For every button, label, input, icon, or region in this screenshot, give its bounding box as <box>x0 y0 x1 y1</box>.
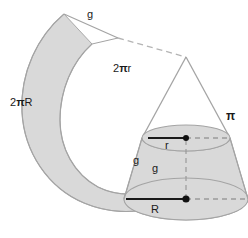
label-sector-top-slant: g <box>87 9 93 20</box>
label-pi-annotation: π <box>226 110 235 122</box>
diagram-canvas <box>0 0 248 238</box>
label-outer-arc-length: 2πR <box>10 97 33 108</box>
label-frustum-slant: g <box>152 163 158 174</box>
label-radius-small: r <box>165 140 169 151</box>
pi-glyph-inner: π <box>119 62 127 74</box>
arc-inner-post: r <box>128 62 132 74</box>
arc-outer-post: R <box>25 96 33 108</box>
sector-top-edge-inner <box>92 38 118 44</box>
label-radius-large: R <box>151 204 159 215</box>
cone-frustum-diagram: g 2πR 2πr π g g r R <box>0 0 248 238</box>
large-circle-center-dot <box>182 195 189 202</box>
dashed-apex-connector <box>118 38 186 57</box>
frustum-group <box>124 57 248 220</box>
label-inner-arc-length: 2πr <box>113 63 131 74</box>
label-sector-bottom-slant: g <box>133 155 139 166</box>
small-circle-center-dot <box>183 135 189 141</box>
pi-glyph-outer: π <box>16 96 24 108</box>
